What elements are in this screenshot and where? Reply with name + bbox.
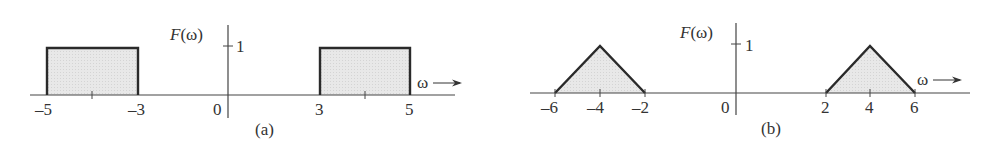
origin-label: 0	[213, 100, 222, 119]
x-tick-label-minus3: –3	[127, 100, 145, 119]
y-tick-label-1: 1	[745, 36, 754, 55]
x-tick-label-4: 4	[865, 98, 874, 117]
x-tick-label-minus4: –4	[586, 98, 605, 117]
x-tick-label-minus2: –2	[631, 98, 649, 117]
x-tick-label-5: 5	[405, 100, 414, 119]
x-var-label: ω	[417, 73, 428, 92]
triangle-left-fill	[555, 46, 645, 93]
x-tick-label-minus5: –5	[34, 100, 52, 119]
pulse-right-fill	[320, 48, 410, 95]
panel-b: F(ω) 1 ω –6 –4 –2 0 2 4 6 (b)	[530, 23, 970, 138]
x-tick-label-minus6: –6	[540, 98, 558, 117]
origin-label: 0	[721, 98, 730, 117]
panel-a: F(ω) 1 ω –5 –3 0 3 5 (a)	[30, 25, 462, 139]
panel-caption-a: (a)	[255, 120, 274, 139]
x-tick-label-2: 2	[821, 98, 830, 117]
figure-canvas: F(ω) 1 ω –5 –3 0 3 5 (a)	[0, 0, 995, 155]
pulse-left-fill	[47, 48, 138, 95]
x-axis-arrow-icon	[933, 77, 962, 84]
x-var-label: ω	[917, 70, 928, 89]
x-tick-label-6: 6	[910, 98, 919, 117]
y-axis-label: F(ω)	[679, 23, 713, 42]
x-tick-label-3: 3	[315, 100, 324, 119]
x-axis-arrow-icon	[433, 80, 462, 87]
y-axis-label: F(ω)	[169, 25, 203, 44]
panel-caption-b: (b)	[761, 119, 781, 138]
y-tick-label-1: 1	[236, 37, 245, 56]
triangle-right-fill	[826, 46, 915, 93]
